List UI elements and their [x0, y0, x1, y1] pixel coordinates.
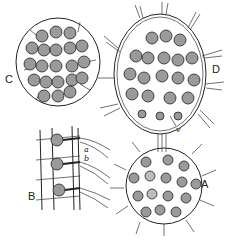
annotation-b: b: [84, 154, 89, 163]
panel-d-colony: [98, 2, 224, 134]
panel-c-colony: [16, 18, 100, 106]
panel-b-wall-section: [36, 126, 110, 210]
annotation-v: v: [176, 125, 181, 134]
panel-label-a: A: [201, 178, 208, 190]
panel-label-d: D: [212, 63, 220, 75]
figure-drawing: [0, 0, 229, 240]
panel-label-b: B: [28, 190, 35, 202]
annotation-a: a: [84, 145, 89, 154]
panel-label-c: C: [5, 73, 13, 85]
